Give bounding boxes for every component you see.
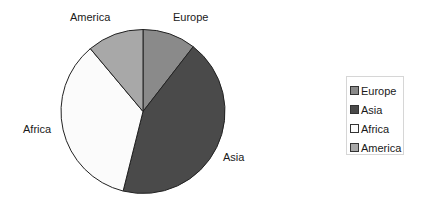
legend-label-africa: Africa	[361, 123, 389, 135]
legend-swatch-asia-icon	[350, 105, 359, 114]
legend-swatch-africa-icon	[350, 124, 359, 133]
legend-swatch-america-icon	[350, 143, 359, 152]
legend-swatch-europe-icon	[350, 86, 359, 95]
slice-label-africa: Africa	[23, 123, 51, 135]
legend-label-asia: Asia	[361, 104, 382, 116]
chart-legend: Europe Asia Africa America	[346, 76, 404, 155]
legend-label-america: America	[361, 142, 401, 154]
legend-label-europe: Europe	[361, 85, 396, 97]
slice-label-america: America	[70, 11, 110, 23]
slice-label-asia: Asia	[223, 151, 244, 163]
legend-item-africa: Africa	[350, 119, 403, 138]
pie-chart: America Europe Africa Asia Europe Asia A…	[0, 0, 429, 207]
legend-item-asia: Asia	[350, 100, 403, 119]
legend-item-europe: Europe	[350, 81, 403, 100]
slice-label-europe: Europe	[173, 11, 208, 23]
legend-item-america: America	[350, 138, 403, 157]
